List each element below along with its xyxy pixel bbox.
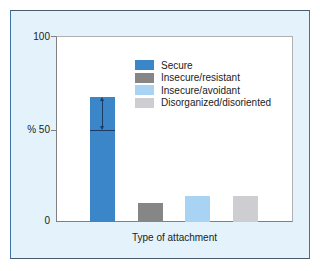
bar-insecure-resistant xyxy=(138,203,163,222)
legend-swatch xyxy=(135,98,154,108)
bar-disorganized-disoriented xyxy=(233,196,258,222)
legend-label: Secure xyxy=(161,60,193,71)
legend-item-insecure-avoidant: Insecure/avoidant xyxy=(135,84,271,97)
arrow-down-icon xyxy=(100,126,104,130)
y-tick-100: 100 xyxy=(10,32,50,42)
legend-label: Disorganized/disoriented xyxy=(161,97,271,108)
y-tickmark-100 xyxy=(51,36,56,37)
legend-item-secure: Secure xyxy=(135,59,271,72)
bar-insecure-avoidant xyxy=(185,196,210,222)
range-arrow-icon xyxy=(102,99,103,129)
legend-swatch xyxy=(135,85,154,95)
arrow-up-icon xyxy=(100,97,104,101)
legend-swatch xyxy=(135,73,154,83)
y-tickmark-50 xyxy=(51,130,56,131)
y-tick-50: % 50 xyxy=(10,125,50,135)
legend-item-insecure-resistant: Insecure/resistant xyxy=(135,72,271,85)
legend-label: Insecure/resistant xyxy=(161,72,240,83)
x-axis-label: Type of attachment xyxy=(56,232,293,243)
y-tick-0: 0 xyxy=(10,216,50,226)
fifty-percent-line xyxy=(90,130,115,131)
legend: Secure Insecure/resistant Insecure/avoid… xyxy=(135,59,271,109)
legend-label: Insecure/avoidant xyxy=(161,85,240,96)
legend-item-disorganized: Disorganized/disoriented xyxy=(135,97,271,110)
legend-swatch xyxy=(135,60,154,70)
